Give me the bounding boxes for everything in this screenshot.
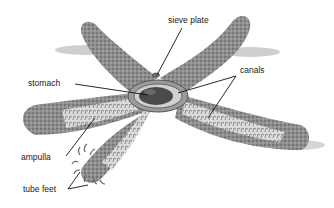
starfish-body [23, 16, 309, 184]
starfish-diagram [0, 0, 334, 208]
label-canals: canals [240, 66, 265, 75]
label-sieve-plate: sieve plate [168, 16, 209, 25]
leader-tube-feet-1 [68, 172, 80, 189]
stomach-organ [139, 87, 173, 105]
label-stomach: stomach [28, 79, 60, 88]
sieve-plate-organ [153, 73, 160, 77]
label-ampulla: ampulla [21, 153, 51, 162]
leader-tube-feet-2 [68, 185, 88, 189]
label-tube-feet: tube feet [23, 185, 56, 194]
